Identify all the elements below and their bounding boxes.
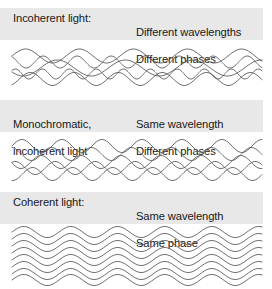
- wave-line: [12, 227, 262, 238]
- label-monochromatic-left-line1: Monochromatic,: [13, 118, 91, 130]
- wave-line: [12, 269, 262, 280]
- wave-area-incoherent: [0, 44, 272, 88]
- label-coherent-left: Coherent light:: [13, 196, 84, 210]
- wave-area-coherent: [0, 224, 272, 286]
- wave-line: [12, 262, 262, 273]
- wave-line: [12, 148, 262, 161]
- wave-line: [12, 140, 262, 153]
- label-monochromatic-right-line1: Same wavelength: [136, 118, 223, 130]
- wave-train-monochromatic-incoherent-light: [0, 136, 272, 182]
- wave-area-monochromatic-incoherent: [0, 136, 272, 182]
- wave-train-coherent-light: [0, 224, 272, 286]
- label-incoherent-left: Incoherent light:: [13, 12, 91, 26]
- wave-line: [12, 49, 262, 63]
- wave-line: [12, 69, 262, 79]
- label-coherent-right-line1: Same wavelength: [136, 210, 223, 222]
- label-incoherent-right-line1: Different wavelengths: [136, 26, 241, 38]
- wave-train-incoherent-light: [0, 44, 272, 88]
- label-band-coherent: Coherent light: Same wavelength Same pha…: [0, 192, 263, 224]
- wave-line: [12, 168, 262, 181]
- wave-line: [12, 234, 262, 245]
- wave-line: [12, 255, 262, 266]
- coherence-diagram: Incoherent light: Different wavelengths …: [0, 0, 272, 289]
- label-band-monochromatic-incoherent: Monochromatic, incoherent light Same wav…: [0, 100, 263, 132]
- wave-line: [12, 241, 262, 252]
- label-band-incoherent: Incoherent light: Different wavelengths …: [0, 8, 263, 40]
- wave-line: [12, 248, 262, 259]
- wave-line: [12, 275, 262, 286]
